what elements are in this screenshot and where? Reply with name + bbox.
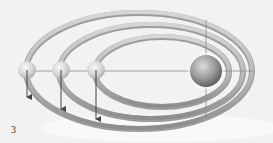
orbit-diagram bbox=[0, 0, 273, 143]
figure-label: 3 bbox=[11, 124, 16, 135]
sun bbox=[186, 51, 226, 91]
